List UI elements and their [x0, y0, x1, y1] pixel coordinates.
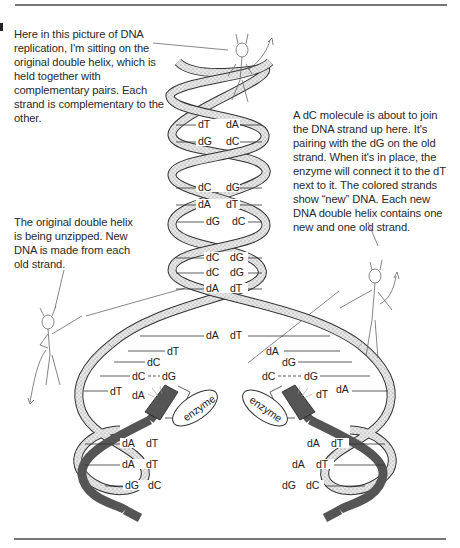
svg-text:dG: dG: [198, 135, 212, 147]
devil-character-pointing-right-icon: [340, 260, 399, 358]
svg-text:dC: dC: [232, 215, 246, 227]
svg-text:dT: dT: [230, 329, 243, 341]
svg-text:dT: dT: [331, 437, 344, 449]
svg-text:dG: dG: [230, 266, 244, 278]
dna-diagram: dT dA dG dC dC dG dA dT dG dC: [0, 0, 460, 548]
svg-text:dC: dC: [306, 479, 320, 491]
svg-text:dA: dA: [198, 198, 211, 210]
svg-text:dG: dG: [125, 479, 139, 491]
svg-text:dT: dT: [230, 282, 243, 294]
svg-text:dG: dG: [162, 370, 176, 382]
svg-text:dA: dA: [122, 458, 135, 470]
svg-text:dC: dC: [206, 266, 220, 278]
left-daughter-helix: [78, 345, 170, 518]
svg-text:dC: dC: [148, 479, 162, 491]
svg-text:dA: dA: [132, 389, 145, 401]
svg-text:dG: dG: [206, 215, 220, 227]
svg-text:dT: dT: [167, 345, 180, 357]
base-pair: dG dC: [176, 215, 262, 227]
svg-text:dA: dA: [307, 437, 320, 449]
svg-text:dC: dC: [132, 370, 146, 382]
svg-text:dT: dT: [316, 388, 329, 400]
base-pair: dA dT: [140, 329, 330, 341]
svg-text:dG: dG: [282, 479, 296, 491]
svg-text:dT: dT: [110, 385, 123, 397]
svg-text:dG: dG: [230, 251, 244, 263]
svg-text:dT: dT: [146, 437, 159, 449]
svg-text:dA: dA: [266, 345, 279, 357]
svg-text:dA: dA: [122, 437, 135, 449]
svg-text:dT: dT: [226, 198, 239, 210]
devil-character-pointing-left-icon: [28, 306, 82, 404]
svg-text:dT: dT: [198, 118, 211, 130]
base-pair: dC dG: [176, 266, 262, 278]
enzyme-left: enzyme: [145, 383, 223, 432]
svg-text:dG: dG: [282, 356, 296, 368]
svg-text:dC: dC: [262, 370, 276, 382]
svg-text:dC: dC: [198, 181, 212, 193]
svg-text:dA: dA: [226, 118, 239, 130]
svg-text:dG: dG: [304, 370, 318, 382]
svg-text:dC: dC: [147, 356, 161, 368]
svg-text:dA: dA: [206, 329, 219, 341]
svg-text:dA: dA: [206, 282, 219, 294]
svg-text:dG: dG: [226, 181, 240, 193]
svg-text:dT: dT: [146, 458, 159, 470]
svg-text:dA: dA: [336, 383, 349, 395]
enzyme-right: enzyme: [237, 383, 315, 432]
svg-text:dA: dA: [292, 458, 305, 470]
svg-text:dC: dC: [226, 135, 240, 147]
svg-text:dC: dC: [206, 251, 220, 263]
svg-text:dT: dT: [316, 458, 329, 470]
